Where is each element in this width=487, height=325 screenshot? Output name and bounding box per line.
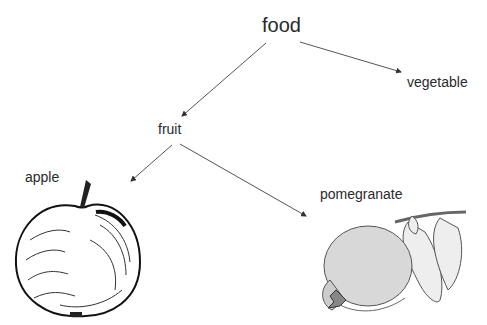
node-fruit: fruit <box>158 121 181 137</box>
apple-illustration <box>16 180 140 317</box>
pomegranate-illustration <box>323 212 466 311</box>
diagram-canvas <box>0 0 487 325</box>
edge-food-vegetable <box>300 42 401 72</box>
edge-food-fruit <box>182 43 266 116</box>
node-apple: apple <box>25 169 59 185</box>
node-food: food <box>262 14 301 37</box>
node-vegetable: vegetable <box>407 74 468 90</box>
edge-fruit-apple <box>131 145 172 181</box>
node-pomegranate: pomegranate <box>320 186 403 202</box>
edge-fruit-pomegranate <box>180 144 306 216</box>
